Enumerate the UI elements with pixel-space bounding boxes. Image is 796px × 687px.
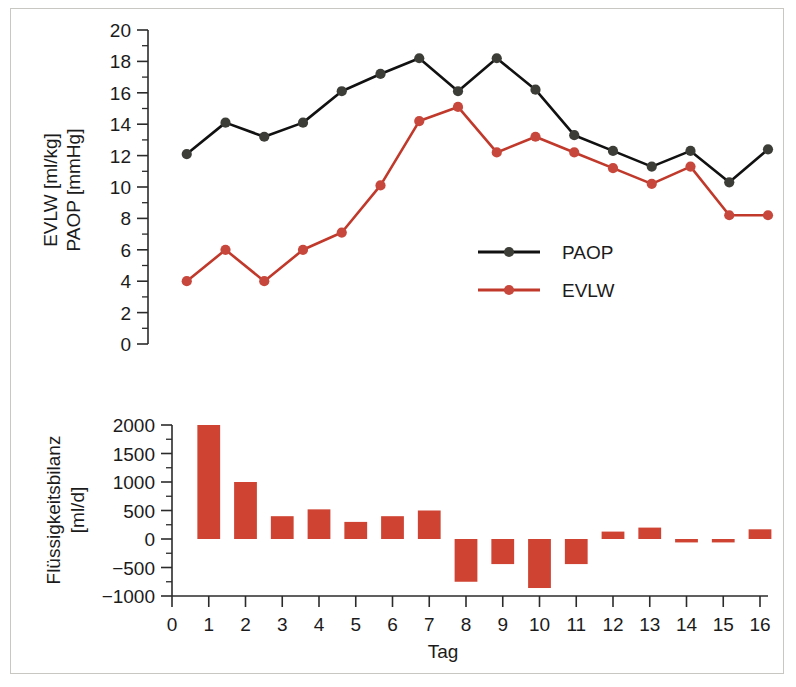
top-y-title-line1: EVLW [ml/kg] [40,133,61,247]
top-panel-y-tick-labels: 02468101214161820 [110,20,132,355]
data-point [647,179,657,189]
series-line [187,58,768,182]
data-point [259,276,269,286]
top-y-tick-label: 16 [110,83,131,104]
data-point [298,118,308,128]
bottom-panel-x-tick-labels: 012345678910111213141516 [167,614,771,635]
bottom-y-tick-label: 1500 [113,444,155,465]
top-y-tick-label: 4 [120,271,131,292]
data-point [569,130,579,140]
top-y-tick-label: 20 [110,20,131,41]
data-point [220,245,230,255]
data-point [608,146,618,156]
bottom-y-tick-label: 1000 [113,472,155,493]
top-y-tick-label: 14 [110,114,132,135]
data-point [492,147,502,157]
top-panel: 02468101214161820 EVLW [ml/kg] PAOP [mmH… [40,20,773,355]
bar [381,516,404,539]
bar [271,516,294,539]
data-point [685,161,695,171]
top-y-title-line2: PAOP [mmHg] [63,129,84,252]
legend-swatch-marker [504,285,514,295]
bottom-x-tick-label: 5 [350,614,361,635]
data-point [259,132,269,142]
bottom-x-tick-label: 14 [676,614,698,635]
data-point [492,53,502,63]
top-y-tick-label: 0 [120,334,131,355]
data-point [453,86,463,96]
bottom-x-tick-label: 0 [167,614,178,635]
bottom-x-tick-label: 4 [314,614,325,635]
top-panel-y-axis [137,30,148,344]
data-point [375,180,385,190]
bottom-x-tick-label: 16 [749,614,770,635]
figure-root: 02468101214161820 EVLW [ml/kg] PAOP [mmH… [0,0,796,687]
bottom-x-tick-label: 15 [713,614,734,635]
bottom-y-tick-label: 0 [144,529,155,550]
bottom-x-tick-label: 12 [602,614,623,635]
data-point [763,210,773,220]
data-point [724,210,734,220]
bar [197,425,220,539]
top-y-tick-label: 8 [120,208,131,229]
bar [675,539,698,542]
bar [602,532,625,539]
bottom-panel-y-tick-labels: −1000−5000500100015002000 [102,415,155,607]
bottom-x-tick-label: 7 [424,614,435,635]
bottom-y-tick-label: 500 [123,501,155,522]
legend-swatch-marker [504,247,514,257]
bottom-x-tick-label: 3 [277,614,288,635]
data-point [375,69,385,79]
data-point [337,86,347,96]
bottom-x-tick-label: 10 [529,614,550,635]
top-y-tick-label: 12 [110,146,131,167]
bar [308,509,331,539]
top-y-tick-label: 2 [120,303,131,324]
data-point [608,163,618,173]
bar [749,529,772,539]
bottom-panel-bars [197,425,771,588]
bar [565,539,588,564]
data-point [685,146,695,156]
bottom-x-tick-label: 1 [203,614,214,635]
data-point [337,227,347,237]
series-evlw [182,102,773,286]
bottom-x-tick-label: 6 [387,614,398,635]
bar [234,482,257,539]
data-point [220,118,230,128]
bottom-x-tick-label: 11 [566,614,586,635]
top-y-tick-label: 6 [120,240,131,261]
bottom-x-tick-label: 8 [461,614,472,635]
top-panel-series-group [182,53,773,286]
bar [712,539,735,542]
bottom-y-title-line2: [ml/d] [67,487,88,533]
bar [491,539,514,564]
data-point [182,149,192,159]
data-point [414,116,424,126]
bottom-y-tick-label: 2000 [113,415,155,436]
top-y-tick-label: 10 [110,177,131,198]
data-point [530,132,540,142]
bottom-x-tick-label: 9 [497,614,508,635]
data-point [569,147,579,157]
legend-item-paop: PAOP [478,242,613,263]
top-y-tick-label: 18 [110,51,131,72]
data-point [298,245,308,255]
bottom-x-tick-label: 2 [240,614,251,635]
bottom-x-tick-label: 13 [639,614,660,635]
legend-label: EVLW [562,280,615,301]
chart-canvas: 02468101214161820 EVLW [ml/kg] PAOP [mmH… [0,0,796,687]
bar [638,528,661,539]
bottom-x-axis-title: Tag [428,641,459,662]
bottom-y-title-line1: Flüssigkeitsbilanz [43,436,64,585]
bottom-panel: −1000−5000500100015002000 01234567891011… [43,415,771,662]
bar [344,522,367,539]
bar [455,539,478,582]
series-paop [182,53,773,187]
legend-label: PAOP [562,242,613,263]
data-point [530,85,540,95]
bottom-y-tick-label: −1000 [102,586,155,607]
data-point [763,144,773,154]
top-panel-y-axis-title: EVLW [ml/kg] PAOP [mmHg] [40,129,84,252]
bar [418,511,441,540]
